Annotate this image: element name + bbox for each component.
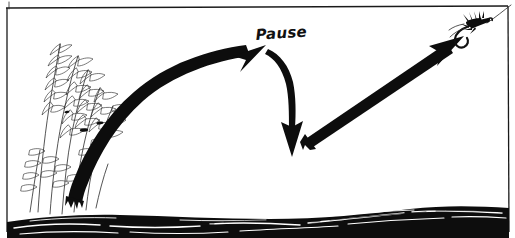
fly-cast-illustration: Pause: [0, 0, 515, 238]
pause-annotation-label: Pause: [255, 22, 308, 44]
illustration-canvas: Pause: [0, 0, 515, 238]
